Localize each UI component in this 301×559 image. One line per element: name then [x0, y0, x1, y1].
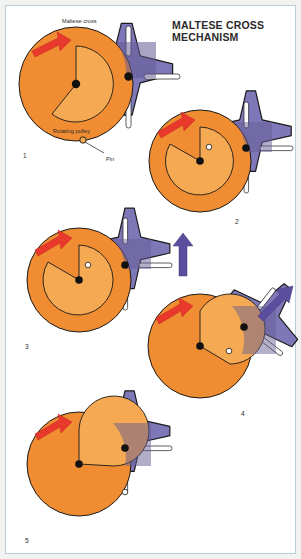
pulley-center: [196, 157, 204, 165]
drive-pin[interactable]: [226, 348, 232, 354]
stage-4-figure: [146, 284, 301, 416]
label-rotating-pulley: Rotating pulley: [53, 128, 90, 134]
drive-pin[interactable]: [206, 144, 212, 150]
cross-center-pivot: [242, 144, 250, 152]
stage-2-figure: [146, 104, 301, 229]
pulley-center: [196, 342, 204, 350]
page-title: MALTESE CROSS MECHANISM: [172, 20, 292, 44]
diagram-canvas: MALTESE CROSS MECHANISM Maltese cross Ro…: [6, 6, 295, 553]
step-number-4: 4: [241, 410, 245, 417]
cross-center-pivot: [121, 261, 129, 269]
pin-leader-line: [85, 142, 104, 153]
pulley-center: [75, 276, 83, 284]
step-number-1: 1: [23, 152, 27, 159]
stage-5-figure: [22, 404, 202, 544]
drive-pin[interactable]: [122, 489, 128, 495]
cross-center-pivot: [121, 444, 129, 452]
illustration-page: MALTESE CROSS MECHANISM Maltese cross Ro…: [0, 0, 301, 559]
label-maltese-cross: Maltese cross: [62, 18, 97, 24]
cross-center-pivot: [240, 323, 248, 331]
pulley-center: [75, 460, 83, 468]
cross-rotation-arrow-purple: [173, 233, 193, 276]
drive-pin[interactable]: [85, 262, 91, 268]
illustration-frame: MALTESE CROSS MECHANISM Maltese cross Ro…: [5, 5, 296, 554]
cross-center-pivot: [124, 72, 132, 80]
step-number-3: 3: [25, 343, 29, 350]
label-pin: Pin: [106, 156, 114, 162]
step-number-2: 2: [235, 218, 239, 225]
step-number-5: 5: [25, 537, 29, 544]
pulley-center: [72, 80, 80, 88]
